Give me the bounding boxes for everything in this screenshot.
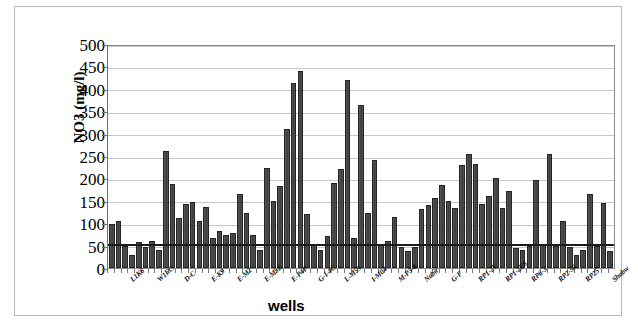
bar: [432, 198, 438, 268]
bar: [500, 208, 506, 268]
bar: [304, 214, 310, 268]
y-axis-tick-labels: 050100150200250300350400450500: [61, 35, 105, 279]
bar: [156, 250, 162, 268]
bar: [122, 246, 128, 268]
bar: [170, 184, 176, 268]
x-tick-label: D-C: [182, 269, 197, 284]
bar: [452, 208, 458, 268]
reference-line-50: [108, 244, 614, 245]
bar: [594, 246, 600, 268]
bar: [426, 205, 432, 268]
bar: [607, 251, 613, 268]
bar: [533, 180, 539, 268]
bar-series: [108, 46, 614, 268]
bar: [298, 71, 304, 268]
bar: [210, 238, 216, 268]
plot-area: [107, 45, 615, 269]
bar: [479, 204, 485, 268]
y-tick-label-50: 50: [61, 238, 105, 255]
bar: [136, 242, 142, 268]
bar: [466, 154, 472, 268]
bar: [109, 224, 115, 268]
bar: [553, 246, 559, 268]
y-tick-label-200: 200: [61, 171, 105, 188]
bar: [176, 218, 182, 268]
x-axis-tick-labels: L1K6W1ECD-CE-K9E-M2E-M5KE-P4PG-I-4CL-M59…: [107, 271, 615, 326]
bar: [318, 250, 324, 268]
y-tick-label-450: 450: [61, 59, 105, 76]
bar: [506, 191, 512, 268]
bar: [580, 250, 586, 268]
bar: [183, 204, 189, 269]
bar: [250, 235, 256, 268]
bar: [230, 233, 236, 268]
bar: [446, 201, 452, 268]
bar: [277, 186, 283, 268]
bar: [493, 178, 499, 268]
x-tick-label: G-F: [449, 269, 464, 284]
y-tick-label-250: 250: [61, 149, 105, 166]
bar: [338, 169, 344, 268]
bar: [257, 250, 263, 268]
bar: [217, 231, 223, 268]
bar: [345, 80, 351, 268]
bar: [291, 83, 297, 268]
bar: [264, 168, 270, 268]
bar: [129, 255, 135, 268]
bar: [486, 196, 492, 268]
bar: [143, 247, 149, 268]
bar: [271, 201, 277, 268]
bar: [601, 203, 607, 268]
bar: [399, 247, 405, 269]
bar: [190, 202, 196, 268]
bar: [419, 209, 425, 268]
bar: [392, 217, 398, 268]
y-tick-label-300: 300: [61, 126, 105, 143]
y-tick-label-100: 100: [61, 216, 105, 233]
x-axis-title: wells: [268, 297, 305, 314]
bar: [365, 213, 371, 268]
y-tick-label-350: 350: [61, 104, 105, 121]
y-tick-label-0: 0: [61, 261, 105, 278]
bar: [237, 194, 243, 268]
bar: [284, 129, 290, 268]
bar: [372, 160, 378, 268]
bar: [587, 194, 593, 268]
bar: [547, 154, 553, 268]
bar: [311, 245, 317, 268]
y-tick-label-150: 150: [61, 193, 105, 210]
bar: [203, 207, 209, 268]
bar: [439, 185, 445, 268]
chart-frame: NO3 (mg/l) 05010015020025030035040045050…: [14, 6, 622, 316]
y-tick-label-500: 500: [61, 37, 105, 54]
bar: [244, 213, 250, 268]
y-tick-label-400: 400: [61, 81, 105, 98]
bar: [163, 151, 169, 268]
bar: [331, 183, 337, 268]
bar: [459, 165, 465, 268]
bar: [473, 164, 479, 268]
bar: [223, 235, 229, 268]
